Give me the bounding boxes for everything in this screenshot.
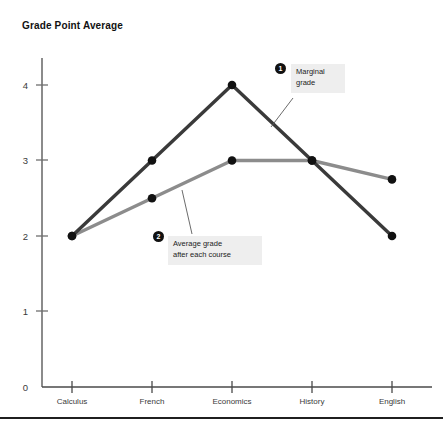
x-label-french: French xyxy=(140,397,165,406)
data-point xyxy=(308,156,317,165)
series-line-1 xyxy=(72,161,392,237)
callout-2-label: Average grade after each course xyxy=(168,236,262,265)
x-label-english: English xyxy=(379,397,405,406)
callout-2-badge: 2 xyxy=(153,231,164,242)
data-point xyxy=(68,232,77,241)
callout-1-badge: 1 xyxy=(275,63,286,74)
chart-figure: Grade Point Average 4 3 2 1 0 Calculus xyxy=(0,0,443,425)
bottom-divider xyxy=(0,417,443,419)
data-point xyxy=(228,156,237,165)
callout-2-leader-line xyxy=(182,190,192,234)
y-tick-label-4: 4 xyxy=(23,80,28,91)
chart-plot-area: 4 3 2 1 0 Calculus French Economics Hist… xyxy=(0,0,443,425)
data-series-layer xyxy=(68,81,397,241)
x-label-economics: Economics xyxy=(212,397,251,406)
y-tick-label-2: 2 xyxy=(23,231,28,242)
callout-1-leader-line xyxy=(271,98,293,127)
x-label-calculus: Calculus xyxy=(57,397,88,406)
y-tick-label-0: 0 xyxy=(23,382,28,393)
data-point xyxy=(388,232,397,241)
y-tick-label-3: 3 xyxy=(23,155,28,166)
y-tick-label-1: 1 xyxy=(23,306,28,317)
x-label-history: History xyxy=(300,397,325,406)
data-point xyxy=(228,81,237,90)
data-point xyxy=(148,156,157,165)
data-point xyxy=(148,194,157,203)
data-point xyxy=(388,175,397,184)
callout-1-label: Marginal grade xyxy=(291,64,345,93)
